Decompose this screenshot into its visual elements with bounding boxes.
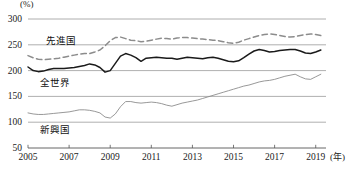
series-label-2: 新興国 (40, 122, 70, 136)
y-axis-tick-label: 200 (8, 66, 22, 76)
x-axis-tick-label: 2011 (142, 152, 161, 162)
x-axis-tick-label: 2015 (224, 152, 243, 162)
x-axis-tick-label: 2007 (60, 152, 79, 162)
y-axis-tick-label: 150 (8, 91, 22, 101)
series-label-0: 先進国 (46, 33, 76, 47)
x-axis-tick-label: 2017 (265, 152, 284, 162)
chart-container: (%) 30025020015010050 200520072009201120… (0, 0, 354, 179)
y-axis-tick-label: 100 (8, 117, 22, 127)
x-axis-tick-labels: 20052007200920112013201520172019 (0, 150, 354, 164)
x-axis-tick-label: 2005 (19, 152, 38, 162)
y-axis-tick-label: 250 (8, 40, 22, 50)
y-axis-tick-label: 300 (8, 14, 22, 24)
x-axis-tick-label: 2009 (101, 152, 120, 162)
x-axis-unit-label: (年) (330, 150, 345, 163)
series-line-1 (28, 49, 321, 72)
source-caption (22, 170, 342, 179)
x-axis-tick-label: 2013 (183, 152, 202, 162)
series-label-1: 全世界 (40, 75, 70, 89)
x-axis-tick-label: 2019 (306, 152, 325, 162)
